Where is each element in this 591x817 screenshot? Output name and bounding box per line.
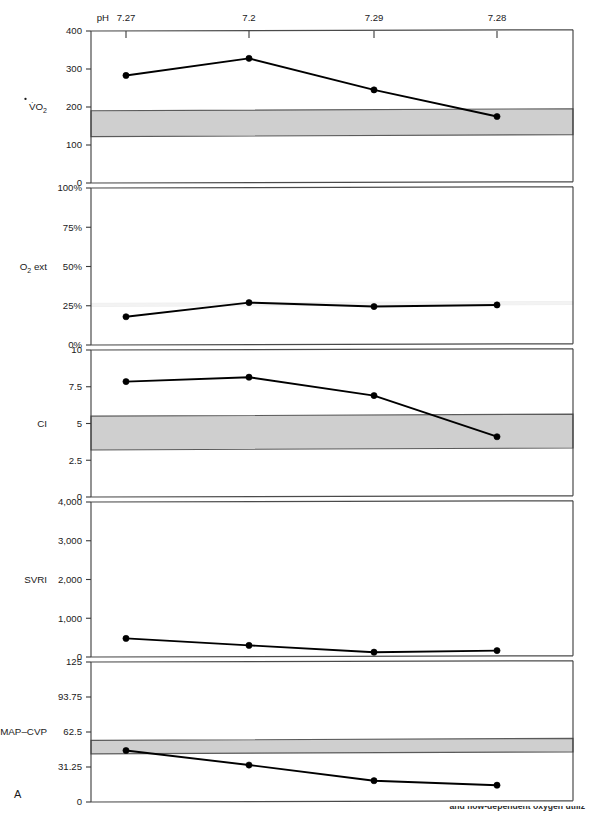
series-line xyxy=(126,751,497,786)
series-data-point[interactable] xyxy=(246,300,252,306)
series-data-point[interactable] xyxy=(246,642,252,648)
panel-row-label: CI xyxy=(37,418,47,429)
y-tick-label: 2.5 xyxy=(69,455,82,466)
y-tick-label: 62.5 xyxy=(63,726,82,737)
series-data-point[interactable] xyxy=(123,635,129,641)
chart-canvas: pH7.277.27.297.280100200300400V̇O20%25%5… xyxy=(0,0,591,817)
y-tick-label: 10 xyxy=(71,344,82,355)
figure-caption-clipped: and flow-dependent oxygen utiliz xyxy=(0,806,591,817)
y-tick-label: 100 xyxy=(66,139,82,150)
series-data-point[interactable] xyxy=(371,392,377,398)
y-tick-label: 7.5 xyxy=(69,381,82,392)
y-tick-label: 400 xyxy=(66,25,82,36)
series-data-point[interactable] xyxy=(371,87,377,93)
panel-bottom-border xyxy=(91,496,573,497)
series-data-point[interactable] xyxy=(494,113,500,119)
y-tick-label: 2,000 xyxy=(58,574,82,585)
x-tick-label: 7.2 xyxy=(242,12,255,23)
series-data-point[interactable] xyxy=(494,434,500,440)
series-data-point[interactable] xyxy=(123,314,129,320)
y-tick-label: 200 xyxy=(66,101,82,112)
x-tick-label: 7.27 xyxy=(117,12,136,23)
x-axis-title: pH xyxy=(97,12,109,23)
series-data-point[interactable] xyxy=(494,302,500,308)
panel-top-border xyxy=(91,349,573,350)
series-data-point[interactable] xyxy=(371,303,377,309)
panel-map_cvp: 031.2562.593.75125MAP–CVP xyxy=(0,656,573,807)
panel-top-border xyxy=(91,661,573,662)
y-tick-label: 3,000 xyxy=(58,535,82,546)
series-data-point[interactable] xyxy=(371,649,377,655)
normal-range-band xyxy=(91,414,573,450)
normal-range-band xyxy=(91,109,573,137)
panel-top-border xyxy=(91,187,573,188)
panel-row-label: V̇O2 xyxy=(29,101,47,114)
panel-svri: 01,0002,0003,0004,000SVRI xyxy=(24,496,573,662)
panel-vo2: 0100200300400V̇O2 xyxy=(24,25,573,188)
series-data-point[interactable] xyxy=(494,648,500,654)
y-tick-label: 93.75 xyxy=(58,691,82,702)
series-data-point[interactable] xyxy=(123,747,129,753)
panel-top-border xyxy=(91,501,573,502)
y-tick-label: 125 xyxy=(66,656,82,667)
series-data-point[interactable] xyxy=(123,379,129,385)
figure-caption-text: and flow-dependent oxygen utiliz xyxy=(0,806,591,811)
panel-o2_ext: 0%25%50%75%100%O2 ext xyxy=(20,182,573,350)
y-tick-label: 300 xyxy=(66,63,82,74)
panel-letter-a: A xyxy=(14,788,22,800)
series-line xyxy=(126,638,497,652)
panel-bottom-border xyxy=(91,182,573,183)
panel-row-label: O2 ext xyxy=(20,261,48,274)
panel-bottom-border xyxy=(91,656,573,657)
panel-row-label: MAP–CVP xyxy=(0,726,47,737)
vdot-overdot-icon xyxy=(24,98,26,100)
series-data-point[interactable] xyxy=(123,72,129,78)
y-tick-label: 75% xyxy=(63,222,83,233)
series-data-point[interactable] xyxy=(494,782,500,788)
series-data-point[interactable] xyxy=(246,374,252,380)
normal-range-band xyxy=(91,738,573,753)
series-data-point[interactable] xyxy=(246,55,252,61)
series-data-point[interactable] xyxy=(371,778,377,784)
panel-row-label: SVRI xyxy=(24,574,47,585)
multi-panel-physiology-chart: pH7.277.27.297.280100200300400V̇O20%25%5… xyxy=(0,0,591,817)
y-tick-label: 31.25 xyxy=(58,761,82,772)
panel-top-border xyxy=(91,30,573,31)
y-tick-label: 1,000 xyxy=(58,613,82,624)
series-line xyxy=(126,58,497,116)
y-tick-label: 50% xyxy=(63,261,83,272)
x-tick-label: 7.29 xyxy=(365,12,384,23)
y-tick-label: 5 xyxy=(77,418,82,429)
panel-ci: 02.557.510CI xyxy=(37,344,573,502)
x-tick-label: 7.28 xyxy=(488,12,507,23)
panel-bottom-border xyxy=(91,801,573,802)
y-tick-label: 100% xyxy=(57,182,82,193)
y-tick-label: 25% xyxy=(63,300,83,311)
y-tick-label: 4,000 xyxy=(58,496,82,507)
panel-bottom-border xyxy=(91,344,573,345)
series-data-point[interactable] xyxy=(246,762,252,768)
